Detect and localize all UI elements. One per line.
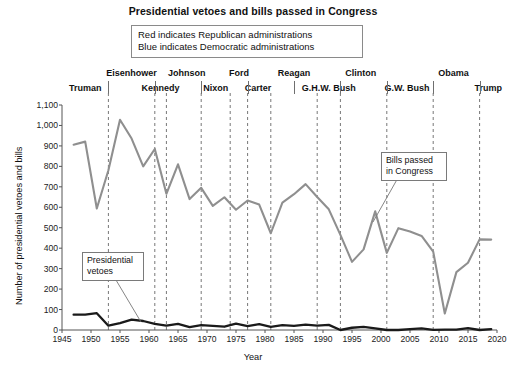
callout-leader-bills <box>373 176 399 222</box>
callout-presidential-vetoes: Presidential vetoes <box>82 252 144 281</box>
series-presidential-vetoes <box>74 313 492 330</box>
callout-bills-passed: Bills passed in Congress <box>381 152 447 181</box>
callout-leader-vetoes <box>113 275 141 322</box>
series-bills-passed <box>74 120 492 314</box>
